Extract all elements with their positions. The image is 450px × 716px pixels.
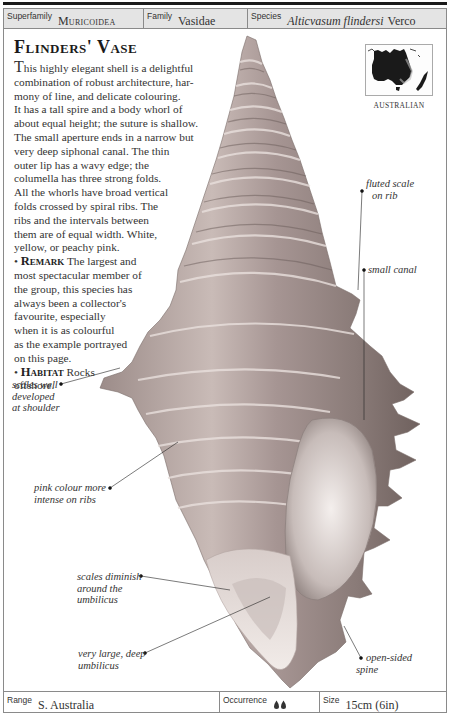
- superfamily-value: Muricoidea: [58, 14, 116, 28]
- annotation-scales-shoulder: scales well developed at shoulder: [12, 379, 60, 414]
- remark-line: most spectacular member of: [14, 269, 229, 283]
- description-line: It has a tall spire and a body whorl of: [14, 103, 229, 117]
- australia-map-icon: [366, 45, 432, 95]
- species-label: Species: [251, 11, 281, 21]
- remark-line: favourite, especially: [14, 310, 229, 324]
- species-author: Verco: [388, 14, 416, 28]
- description-line: All the whorls have broad vertical: [14, 186, 229, 200]
- habitat-heading: Habitat: [21, 365, 64, 379]
- map-caption: AUSTRALIAN: [356, 101, 442, 110]
- description-line: very deep siphonal canal. The thin: [14, 145, 229, 159]
- description-text: This highly elegant shell is a delightfu…: [14, 60, 229, 393]
- size-cell: Size 15cm (6in): [320, 692, 446, 712]
- description-line: about equal height; the suture is shallo…: [14, 117, 229, 131]
- description-line: This highly elegant shell is a delightfu…: [14, 60, 229, 76]
- annotation-pink-colour: pink colour more intense on ribs: [34, 482, 106, 505]
- remark-line: on this page.: [14, 352, 229, 366]
- family-label: Family: [147, 11, 172, 21]
- remark-heading-line: • Remark The largest and: [14, 255, 229, 269]
- habitat-heading-line: • Habitat Rocks: [14, 366, 229, 380]
- remark-line: always been a collector's: [14, 297, 229, 311]
- superfamily-label: Superfamily: [7, 11, 52, 21]
- annotation-small-canal: small canal: [368, 264, 417, 276]
- annotation-umbilicus: very large, deep umbilicus: [78, 648, 146, 671]
- range-label: Range: [7, 695, 32, 705]
- size-value: 15cm (6in): [346, 698, 399, 712]
- description-line: outer lip has a wavy edge; the: [14, 159, 229, 173]
- description-line: yellow, or peachy pink.: [14, 241, 229, 255]
- annotation-fluted-scale: fluted scale on rib: [366, 178, 414, 201]
- description-line: ribs and the intervals between: [14, 214, 229, 228]
- remark-heading: Remark: [21, 254, 65, 268]
- drop-cap: T: [14, 58, 24, 75]
- top-rule: [3, 2, 447, 5]
- remark-line: as the example portrayed: [14, 338, 229, 352]
- description-line: columella has three strong folds.: [14, 172, 229, 186]
- page-title: Flinders' Vase: [14, 37, 137, 58]
- description-line: folds crossed by spiral ribs. The: [14, 200, 229, 214]
- info-footer: Range S. Australia Occurrence Size 15cm …: [3, 691, 447, 713]
- range-value: S. Australia: [38, 698, 94, 712]
- annotation-open-spine: open-sided spine: [366, 652, 412, 675]
- species-name: Alticvasum flindersi: [287, 14, 383, 28]
- remark-line: the group, this species has: [14, 283, 229, 297]
- two-drops-icon: [273, 700, 287, 710]
- annotation-scales-diminish: scales diminish around the umbilicus: [77, 571, 141, 606]
- bullet: •: [14, 255, 18, 267]
- description-line: combination of robust architecture, har-: [14, 76, 229, 90]
- classification-header: Superfamily Muricoidea Family Vasidae Sp…: [3, 8, 447, 29]
- description-line: mony of line, and delicate colouring.: [14, 90, 229, 104]
- family-cell: Family Vasidae: [144, 9, 248, 28]
- distribution-map: [365, 44, 433, 96]
- superfamily-cell: Superfamily Muricoidea: [4, 9, 144, 28]
- bullet: •: [14, 366, 18, 378]
- description-line: The small aperture ends in a narrow but: [14, 131, 229, 145]
- range-cell: Range S. Australia: [4, 692, 220, 712]
- description-line: them are of equal width. White,: [14, 228, 229, 242]
- family-value: Vasidae: [178, 14, 215, 28]
- size-label: Size: [323, 695, 340, 705]
- remark-line: when it is as colourful: [14, 324, 229, 338]
- species-cell: Species Alticvasum flindersi Verco: [248, 9, 446, 28]
- occurrence-cell: Occurrence: [220, 692, 320, 712]
- occurrence-label: Occurrence: [223, 695, 267, 705]
